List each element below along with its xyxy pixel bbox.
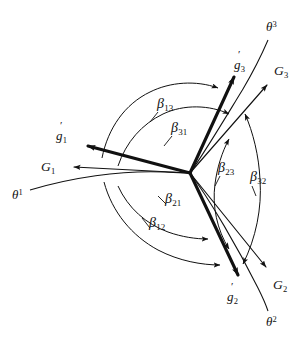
g1-prime-subscript: 1 <box>63 135 67 145</box>
G2-base: G <box>273 277 283 292</box>
angle-arcs <box>102 83 260 265</box>
theta1-superscript: 1 <box>19 187 23 197</box>
beta12-base: β <box>149 215 156 230</box>
beta21-base: β <box>165 191 172 206</box>
beta21-subscript: 21 <box>172 198 181 208</box>
theta3-curve <box>190 40 268 173</box>
label-G1: G1 <box>41 158 55 175</box>
g2-prime-subscript: 2 <box>234 296 238 306</box>
label-leaders <box>142 112 256 228</box>
beta13-base: β <box>157 96 164 111</box>
label-beta32: β32 <box>250 168 266 186</box>
theta2-base: θ <box>266 314 272 329</box>
label-g1-prime: ′ g1 <box>56 127 67 144</box>
label-theta3: θ3 <box>266 18 277 34</box>
beta13-subscript: 13 <box>164 103 173 113</box>
label-beta21: β21 <box>165 190 181 208</box>
label-theta1: θ1 <box>12 186 23 202</box>
G3-subscript: 3 <box>284 70 288 80</box>
beta31-subscript: 31 <box>178 127 187 137</box>
beta23-subscript: 23 <box>225 167 234 177</box>
label-G2: G2 <box>273 276 287 293</box>
beta12-subscript: 12 <box>156 222 165 232</box>
g1-prime-mark: ′ <box>60 120 62 131</box>
beta32-subscript: 32 <box>257 176 266 186</box>
label-g3-prime: ′ g3 <box>234 56 245 73</box>
label-theta2: θ2 <box>266 313 277 329</box>
G1-subscript: 1 <box>51 166 55 176</box>
g3-prime-mark: ′ <box>238 49 240 60</box>
label-beta23: β23 <box>218 159 234 177</box>
theta1-base: θ <box>12 187 18 202</box>
beta32-leader <box>252 186 256 196</box>
label-beta31: β31 <box>171 119 187 137</box>
theta3-superscript: 3 <box>273 19 277 29</box>
label-G3: G3 <box>274 62 288 79</box>
g3-prime-subscript: 3 <box>241 64 245 74</box>
label-beta12: β12 <box>149 214 165 232</box>
g2-prime-mark: ′ <box>231 281 233 292</box>
vector-basis-diagram: ′ g3 G3 θ3 ′ g1 G1 θ1 ′ g2 G2 θ2 β13 β31 <box>0 0 307 343</box>
label-beta13: β13 <box>157 95 173 113</box>
label-g2-prime: ′ g2 <box>227 288 238 305</box>
theta2-superscript: 2 <box>273 314 277 324</box>
beta23-base: β <box>218 160 225 175</box>
theta3-base: θ <box>266 19 272 34</box>
G3-base: G <box>274 63 284 78</box>
beta31-leader <box>164 136 172 146</box>
beta32-base: β <box>250 169 257 184</box>
G1-base: G <box>41 159 51 174</box>
beta31-base: β <box>171 120 178 135</box>
G2-subscript: 2 <box>283 284 287 294</box>
